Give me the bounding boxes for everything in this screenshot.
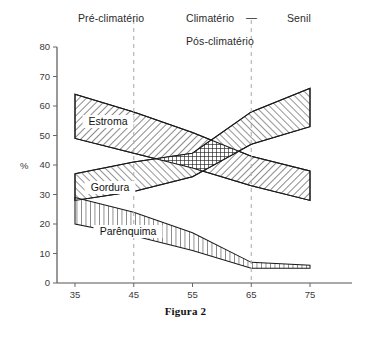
series-label-estroma: Estroma — [88, 115, 127, 127]
y-tick-label-10: 10 — [39, 248, 50, 259]
figure-2-container: Pré-climatério Climatério — Senil Pós-cl… — [0, 0, 371, 337]
y-tick-label-40: 40 — [39, 159, 50, 170]
phase-label-pre-climaterio: Pré-climatério — [78, 12, 144, 24]
y-tick-label-30: 30 — [39, 189, 50, 200]
y-tick-label-50: 50 — [39, 130, 50, 141]
x-tick-label-45: 45 — [128, 289, 139, 300]
figure-caption: Figura 2 — [0, 305, 371, 317]
y-tick-label-60: 60 — [39, 100, 50, 111]
y-axis-title: % — [20, 160, 29, 171]
x-tick-label-65: 65 — [246, 289, 257, 300]
x-tick-label-55: 55 — [187, 289, 198, 300]
phase-label-dash: — — [246, 11, 257, 23]
y-tick-label-0: 0 — [45, 277, 50, 288]
phase-label-climaterio: Climatério — [186, 12, 234, 24]
series-label-parenquima: Parênquima — [100, 225, 157, 237]
y-tick-label-20: 20 — [39, 218, 50, 229]
phase-label-pos-climaterio: Pós-climatério — [186, 35, 254, 47]
x-tick-label-75: 75 — [305, 289, 316, 300]
x-tick-label-35: 35 — [70, 289, 81, 300]
series-label-gordura: Gordura — [91, 181, 130, 193]
y-tick-label-70: 70 — [39, 71, 50, 82]
phase-label-row: Pré-climatério Climatério — Senil Pós-cl… — [0, 0, 371, 46]
phase-label-senil: Senil — [287, 12, 311, 24]
